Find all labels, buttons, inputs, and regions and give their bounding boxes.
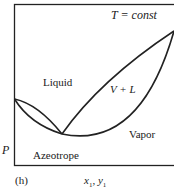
- left-dew-curve: [15, 99, 63, 134]
- y-axis-label: P: [2, 144, 9, 156]
- condition-text: T = const: [111, 8, 157, 22]
- region-vapor-label: Vapor: [129, 129, 155, 140]
- region-azeotrope-label: Azeotrope: [33, 150, 79, 161]
- region-liquid-label: Liquid: [43, 77, 72, 88]
- phase-diagram: [0, 0, 174, 192]
- x-axis-label: x1, y1: [84, 175, 106, 189]
- left-bubble-curve: [15, 99, 63, 134]
- plot-frame: [15, 5, 175, 166]
- region-two-phase-label: V + L: [110, 84, 136, 95]
- condition-label: T = const: [111, 9, 157, 21]
- panel-label: (h): [15, 175, 28, 186]
- x-axis-label-y-sub: 1: [103, 181, 107, 189]
